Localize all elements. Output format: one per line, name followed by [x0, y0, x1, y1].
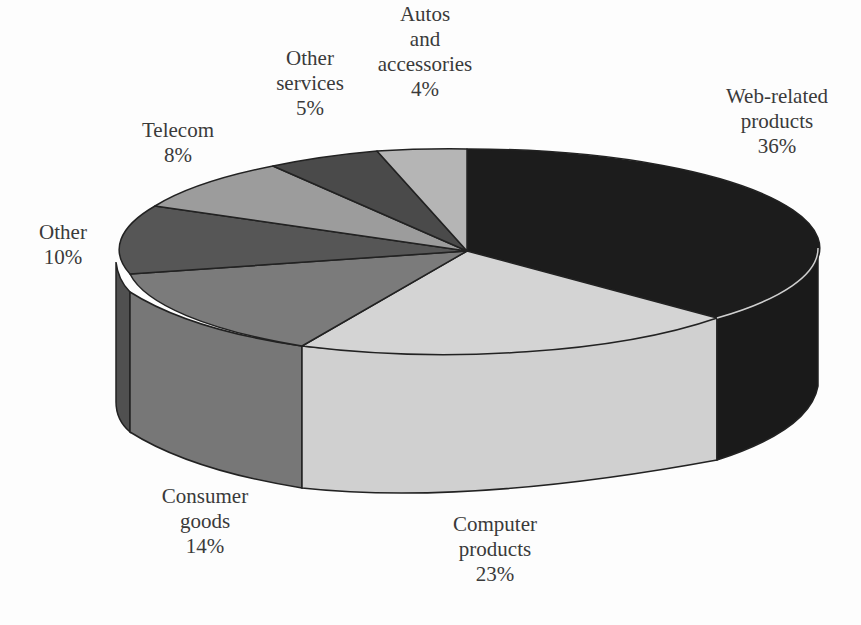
- label-text: Telecom: [128, 118, 228, 143]
- label-computer-products: Computer products 23%: [430, 512, 560, 587]
- label-consumer-goods: Consumer goods 14%: [140, 484, 270, 559]
- label-percent: 36%: [702, 134, 852, 159]
- label-text: Other: [18, 220, 108, 245]
- label-text: Computer: [430, 512, 560, 537]
- label-other-services: Other services 5%: [255, 46, 365, 121]
- label-autos-accessories: Autos and accessories 4%: [360, 2, 490, 102]
- label-telecom: Telecom 8%: [128, 118, 228, 168]
- label-percent: 23%: [430, 562, 560, 587]
- label-web-related: Web-related products 36%: [702, 84, 852, 159]
- label-text: Other: [255, 46, 365, 71]
- label-text: Consumer: [140, 484, 270, 509]
- label-text: Web-related: [702, 84, 852, 109]
- label-text: and: [360, 27, 490, 52]
- label-text: Autos: [360, 2, 490, 27]
- slice-side-other: [116, 262, 130, 432]
- label-percent: 10%: [18, 245, 108, 270]
- label-text: services: [255, 71, 365, 96]
- label-percent: 8%: [128, 143, 228, 168]
- label-text: accessories: [360, 52, 490, 77]
- label-percent: 5%: [255, 96, 365, 121]
- label-percent: 14%: [140, 534, 270, 559]
- label-percent: 4%: [360, 77, 490, 102]
- label-text: products: [702, 109, 852, 134]
- label-text: products: [430, 537, 560, 562]
- label-other: Other 10%: [18, 220, 108, 270]
- label-text: goods: [140, 509, 270, 534]
